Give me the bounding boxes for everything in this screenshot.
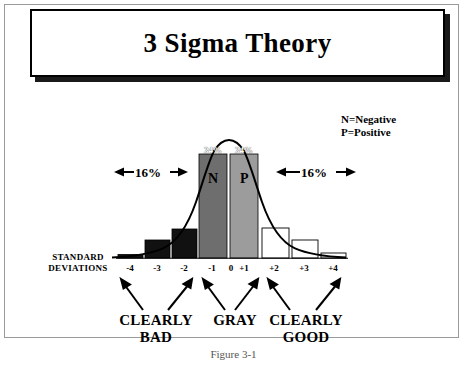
tick-plus-4: +4 <box>323 263 343 273</box>
legend: N=Negative P=Positive <box>341 113 396 139</box>
tick-plus-2: +2 <box>264 263 284 273</box>
legend-line-positive: P=Positive <box>341 126 396 139</box>
category-clearly-bad: CLEARLY BAD <box>108 312 204 346</box>
axis-name-line1: STANDARD <box>38 252 118 263</box>
label-34-percent-left: 34% <box>204 145 222 155</box>
axis-name: STANDARD DEVIATIONS <box>38 252 118 274</box>
category-clearly-bad-line2: BAD <box>108 329 204 346</box>
tick-minus-2: -2 <box>174 263 194 273</box>
tick-plus-3: +3 <box>294 263 314 273</box>
category-gray: GRAY <box>206 312 264 329</box>
category-clearly-good-line2: GOOD <box>258 329 354 346</box>
tick-minus-3: -3 <box>147 263 167 273</box>
page-title: 3 Sigma Theory <box>143 28 331 59</box>
title-box: 3 Sigma Theory <box>30 9 445 77</box>
axis-name-line2: DEVIATIONS <box>38 263 118 274</box>
category-gray-line1: GRAY <box>206 312 264 329</box>
category-clearly-bad-line1: CLEARLY <box>108 312 204 329</box>
tick-plus-1: +1 <box>234 263 254 273</box>
label-16-percent-right: 16% <box>301 165 327 181</box>
legend-line-negative: N=Negative <box>341 113 396 126</box>
label-16-percent-left: 16% <box>135 165 161 181</box>
category-clearly-good-line1: CLEARLY <box>258 312 354 329</box>
label-negative-N: N <box>208 171 218 187</box>
label-34-percent-right: 34% <box>235 145 253 155</box>
label-positive-P: P <box>240 171 249 187</box>
tick-minus-1: -1 <box>202 263 222 273</box>
category-clearly-good: CLEARLY GOOD <box>258 312 354 346</box>
figure-caption: Figure 3-1 <box>0 348 467 360</box>
tick-minus-4: -4 <box>120 263 140 273</box>
figure-page: 3 Sigma Theory N=Negative P=Positive <box>0 0 467 366</box>
